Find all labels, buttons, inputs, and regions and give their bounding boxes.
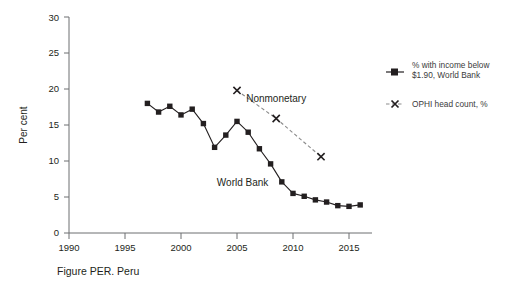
x-tick-label: 2010 [282, 242, 303, 253]
data-point-marker [178, 112, 183, 117]
data-point-marker [358, 202, 363, 207]
series-world-bank-income-below-190 [145, 101, 363, 209]
annotation-nonmonetary: Nonmonetary [246, 93, 306, 104]
data-point-marker [233, 87, 240, 94]
y-axis [64, 17, 69, 233]
legend-label-line2: $1.90, World Bank [412, 70, 481, 80]
x-tick-label: 1995 [114, 242, 135, 253]
data-point-marker [313, 197, 318, 202]
data-point-marker [290, 191, 295, 196]
data-point-marker [167, 104, 172, 109]
x-tick-label: 2015 [338, 242, 359, 253]
x-tick-label: 2000 [170, 242, 191, 253]
y-tick-label: 0 [54, 227, 59, 238]
data-point-marker [145, 101, 150, 106]
x-axis-tick-labels: 1990 1995 2000 2005 2010 2015 [58, 242, 359, 253]
legend-label-line1: OPHI head count, % [412, 99, 488, 109]
data-point-marker [324, 199, 329, 204]
data-point-marker [201, 121, 206, 126]
peru-poverty-line-chart: 0 5 10 15 20 25 30 Per cent 1990 1995 20… [0, 0, 518, 287]
y-tick-label: 15 [48, 119, 59, 130]
data-point-marker [302, 194, 307, 199]
x-tick-label: 2005 [226, 242, 247, 253]
y-tick-label: 25 [48, 47, 59, 58]
annotation-world-bank: World Bank [217, 177, 270, 188]
data-point-marker [223, 132, 228, 137]
data-point-marker [246, 130, 251, 135]
data-point-marker [335, 203, 340, 208]
y-tick-label: 5 [54, 191, 59, 202]
y-axis-tick-labels: 0 5 10 15 20 25 30 [48, 12, 59, 238]
legend-label-line1: % with income below [412, 60, 490, 70]
data-point-marker [273, 115, 280, 122]
y-tick-label: 10 [48, 155, 59, 166]
y-axis-title: Per cent [18, 106, 29, 143]
legend-item-world-bank[interactable]: % with income below $1.90, World Bank [386, 60, 490, 80]
filled-square-icon [391, 69, 398, 76]
legend-item-ophi[interactable]: OPHI head count, % [386, 99, 488, 109]
data-point-marker [190, 106, 195, 111]
data-point-marker [156, 109, 161, 114]
data-point-marker [268, 161, 273, 166]
data-point-marker [257, 146, 262, 151]
data-point-marker [317, 153, 324, 160]
x-tick-label: 1990 [58, 242, 79, 253]
y-tick-label: 30 [48, 12, 59, 23]
data-point-marker [234, 119, 239, 124]
data-point-marker [346, 204, 351, 209]
y-tick-label: 20 [48, 83, 59, 94]
legend: % with income below $1.90, World Bank OP… [386, 60, 490, 109]
figure-caption: Figure PER. Peru [57, 265, 139, 277]
x-axis [69, 233, 372, 239]
data-point-marker [212, 145, 217, 150]
data-point-marker [279, 179, 284, 184]
figure-container: 0 5 10 15 20 25 30 Per cent 1990 1995 20… [0, 0, 518, 287]
